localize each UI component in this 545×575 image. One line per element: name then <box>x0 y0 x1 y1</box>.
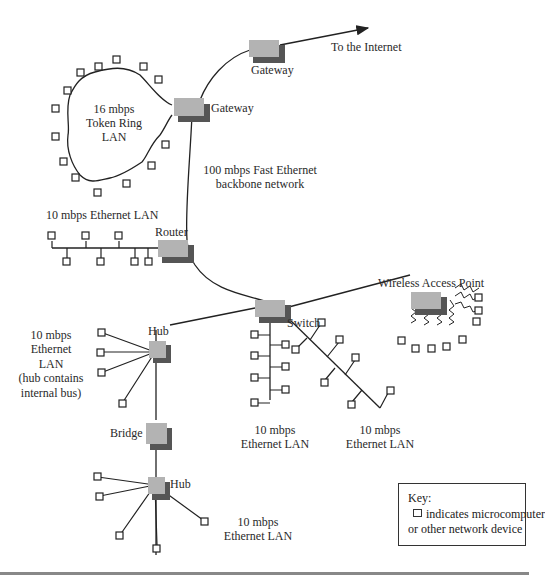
hub-lan-label-1: 10 mbps <box>16 328 86 342</box>
square-device-icon <box>413 509 422 517</box>
token-ring-label-1: 16 mbps <box>82 102 146 116</box>
token-ring-label-2: Token Ring <box>82 116 146 130</box>
bridge-label: Bridge <box>110 426 143 440</box>
switch-vlan-label-2: Ethernet LAN <box>235 437 315 451</box>
key-line-1: indicates microcomputer <box>413 507 545 522</box>
gateway-ring-device <box>174 98 210 122</box>
gateway-top-device <box>249 40 285 63</box>
hub-top-devices <box>97 329 155 407</box>
hub2-lan-label-1: 10 mbps <box>218 515 298 529</box>
gateway-top-label: Gateway <box>251 63 294 77</box>
hub-top-device <box>149 341 171 363</box>
hub-bottom-label: Hub <box>170 477 191 491</box>
hub-lan-label-3: LAN <box>16 357 86 371</box>
hub2-lan-label-2: Ethernet LAN <box>218 529 298 543</box>
key-title: Key: <box>408 491 431 506</box>
switch-label: Switch <box>287 316 320 330</box>
wireless-ap-device <box>411 292 447 315</box>
hub-lan-label-5: internal bus) <box>16 386 86 400</box>
switch-dlan-label-2: Ethernet LAN <box>340 437 420 451</box>
backbone-line <box>187 115 275 305</box>
gateway-ring-label: Gateway <box>211 101 254 115</box>
switch-vlan-label-1: 10 mbps <box>235 423 315 437</box>
token-ring-label-3: LAN <box>82 130 146 144</box>
backbone-label-2: backbone network <box>200 177 320 191</box>
internet-label: To the Internet <box>331 40 401 54</box>
hub-lan-label-2: Ethernet <box>16 342 86 356</box>
hub-lan-label-4: (hub contains <box>16 371 86 385</box>
key-legend: Key: indicates microcomputer or other ne… <box>398 483 526 546</box>
router-device <box>158 240 194 263</box>
switch-hub-link <box>170 308 255 325</box>
switch-dlan-label-1: 10 mbps <box>340 423 420 437</box>
router-lan-label: 10 mbps Ethernet LAN <box>46 208 158 222</box>
bridge-device <box>146 423 172 450</box>
hub-bottom-device <box>148 477 170 500</box>
hub-top-label: Hub <box>148 324 169 338</box>
wireless-ap-label: Wireless Access Point <box>378 276 484 290</box>
backbone-label-1: 100 mbps Fast Ethernet <box>200 163 320 177</box>
key-line-2: or other network device <box>408 522 522 537</box>
gateway-link <box>200 50 250 100</box>
switch-diagonal-devices <box>292 319 394 408</box>
router-label: Router <box>155 225 188 239</box>
switch-device <box>255 300 291 323</box>
